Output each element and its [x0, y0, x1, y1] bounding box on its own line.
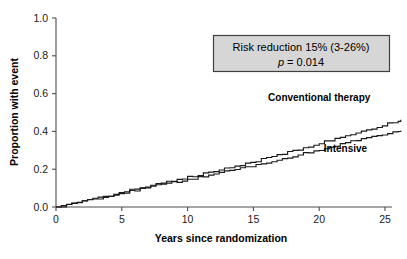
kaplan-meier-figure: 0.00.20.40.60.81.0 0510152025 Convention… [0, 0, 407, 259]
y-tick-label: 0.2 [33, 163, 48, 175]
series-label-intensive: Intensive [324, 143, 368, 154]
series-label-conventional-therapy: Conventional therapy [268, 92, 371, 103]
x-tick-label: 0 [53, 213, 59, 225]
pvalue-value: = 0.014 [284, 56, 324, 68]
y-axis-title: Proportion with event [8, 58, 20, 166]
y-tick-label: 0.4 [33, 125, 48, 137]
series-group [56, 120, 401, 207]
x-axis-title: Years since randomization [155, 232, 287, 244]
y-tick-label: 0.0 [33, 201, 48, 213]
axis-titles-group: Years since randomization Proportion wit… [8, 58, 287, 244]
risk-reduction-annotation: Risk reduction 15% (3-26%) p = 0.014 [214, 36, 390, 72]
y-tick-label: 0.6 [33, 87, 48, 99]
annotation-line-pvalue: p = 0.014 [277, 56, 324, 68]
x-tick-label: 25 [379, 213, 391, 225]
x-tick-label: 15 [248, 213, 260, 225]
pvalue-symbol: p [277, 56, 284, 68]
y-tick-label: 0.8 [33, 49, 48, 61]
chart-canvas: 0.00.20.40.60.81.0 0510152025 Convention… [0, 0, 407, 259]
x-tick-label: 5 [119, 213, 125, 225]
x-axis-ticks: 0510152025 [53, 207, 391, 225]
series-line-conventional-therapy [56, 120, 401, 207]
annotation-line-risk-reduction: Risk reduction 15% (3-26%) [233, 41, 370, 53]
series-line-intensive [56, 131, 401, 207]
x-tick-label: 10 [182, 213, 194, 225]
x-tick-label: 20 [313, 213, 325, 225]
y-axis-ticks: 0.00.20.40.60.81.0 [33, 12, 56, 213]
y-tick-label: 1.0 [33, 12, 48, 24]
